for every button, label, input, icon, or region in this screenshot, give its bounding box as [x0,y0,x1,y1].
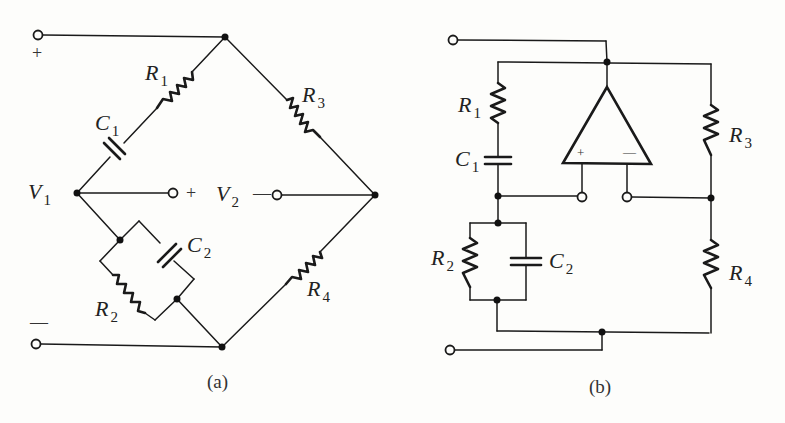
label-R3-b: R3 [729,124,752,151]
label-R3-a: R3 [302,84,325,111]
label-C1-b: C1 [455,148,479,175]
caption-a: (a) [207,372,228,391]
v2-plus-sign: + [186,184,196,202]
label-R1-a: R1 [145,62,168,89]
label-C2-a: C2 [187,234,211,261]
label-R2-b: R2 [431,247,454,274]
node-label-V2: V2 [216,183,239,210]
terminal-minus-label-a: — [30,313,48,331]
terminal-plus-label-a: + [32,44,42,62]
node-label-V1: V1 [28,181,51,208]
caption-b: (b) [589,377,611,396]
label-R4-b: R4 [729,262,752,289]
opamp-plus-sign: + [577,146,584,159]
figure: + — R1 C1 R3 C2 R2 R4 V1 + V2 — (a) R1 C… [0,0,785,423]
opamp-minus-sign: — [623,145,636,158]
label-R1-b: R1 [458,94,481,121]
v2-minus-sign: — [253,184,271,202]
label-C2-b: C2 [549,250,573,277]
label-C1-a: C1 [95,112,119,139]
circuit-a [0,0,785,423]
label-R2-a: R2 [95,298,118,325]
label-R4-a: R4 [307,278,330,305]
